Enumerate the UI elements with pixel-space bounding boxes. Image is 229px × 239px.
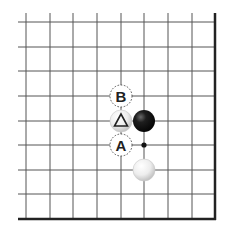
label-b: B	[116, 88, 127, 105]
board-markers: BA	[110, 85, 155, 181]
black-stone	[133, 110, 155, 132]
label-a: A	[116, 137, 127, 154]
point-marker-dot	[141, 142, 146, 147]
go-board-diagram: BA	[0, 0, 229, 239]
white-stone	[133, 159, 155, 181]
